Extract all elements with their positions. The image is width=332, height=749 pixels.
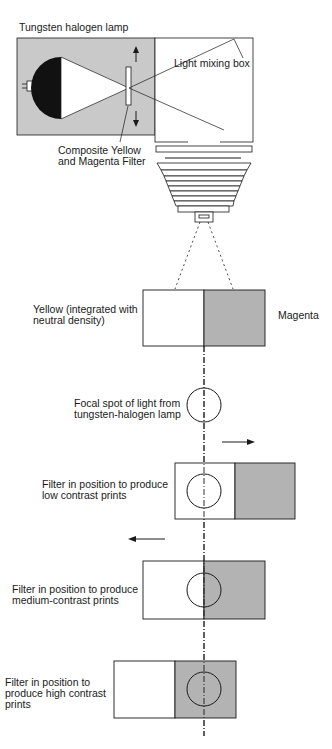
- magenta-label: Magenta: [278, 310, 319, 321]
- filter-position-low: [175, 463, 295, 519]
- mixing-box-label: Light mixing box: [174, 58, 250, 69]
- high-contrast-label-line3: prints: [5, 699, 31, 710]
- composite-filter-icon: [126, 67, 131, 105]
- arrow-left-icon: [128, 536, 165, 542]
- yellow-label-line2: neutral density): [33, 315, 105, 326]
- arrow-right-icon: [222, 439, 255, 445]
- lamp-title-label: Tungsten halogen lamp: [19, 22, 128, 33]
- filter-label-line2: and Magenta Filter: [58, 156, 146, 167]
- medium-contrast-label-line2: medium-contrast prints: [12, 595, 119, 606]
- filter-position-high: [114, 661, 236, 718]
- low-contrast-label-line2: low contrast prints: [42, 490, 127, 501]
- bellows: [157, 163, 251, 222]
- enlarger-diagram: [0, 0, 332, 749]
- focal-spot-label-line2: tungsten-halogen lamp: [74, 409, 181, 420]
- filter-strip-reference: [143, 290, 265, 346]
